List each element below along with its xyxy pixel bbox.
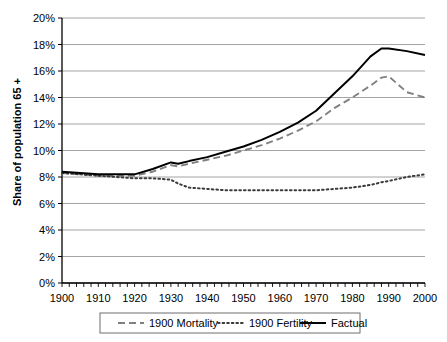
x-tick-label: 1940 <box>195 292 219 304</box>
x-tick-label: 1950 <box>231 292 255 304</box>
x-tick-label: 1910 <box>86 292 110 304</box>
legend-label-factual: Factual <box>331 317 367 329</box>
y-tick-label: 16% <box>33 65 55 77</box>
y-tick-label: 4% <box>39 224 55 236</box>
series-line-1900-mortality <box>62 76 425 175</box>
x-tick-label: 1930 <box>159 292 183 304</box>
y-tick-label: 14% <box>33 92 55 104</box>
x-tick-label: 1920 <box>122 292 146 304</box>
y-tick-label: 20% <box>33 12 55 24</box>
x-tick-label: 1900 <box>50 292 74 304</box>
x-tick-label: 1980 <box>340 292 364 304</box>
y-tick-label: 18% <box>33 39 55 51</box>
y-tick-label: 10% <box>33 145 55 157</box>
line-chart-plot: 0%2%4%6%8%10%12%14%16%18%20%190019101920… <box>0 0 447 342</box>
legend-label-1900-mortality: 1900 Mortality <box>149 317 219 329</box>
y-tick-label: 0% <box>39 277 55 289</box>
y-tick-label: 12% <box>33 118 55 130</box>
series-line-1900-fertility <box>62 173 425 190</box>
x-tick-label: 2000 <box>413 292 437 304</box>
x-tick-label: 1970 <box>304 292 328 304</box>
y-tick-label: 2% <box>39 251 55 263</box>
chart-container: Share of population 65 + 0%2%4%6%8%10%12… <box>0 0 447 342</box>
x-tick-label: 1960 <box>268 292 292 304</box>
y-tick-label: 8% <box>39 171 55 183</box>
series-line-factual <box>62 48 425 174</box>
y-tick-label: 6% <box>39 198 55 210</box>
x-tick-label: 1990 <box>376 292 400 304</box>
